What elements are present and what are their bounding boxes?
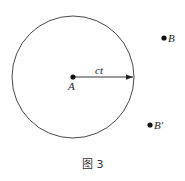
radius-label: ct — [95, 64, 104, 76]
point-b-dot — [161, 35, 166, 40]
point-b-label: B — [168, 32, 175, 44]
diagram-canvas: ct A B B' 图 3 — [0, 0, 185, 181]
point-a-label: A — [67, 80, 75, 92]
point-b-prime-label: B' — [154, 119, 164, 131]
point-a-dot — [70, 74, 75, 79]
figure-caption: 图 3 — [82, 158, 104, 171]
point-b-prime-dot — [147, 122, 152, 127]
